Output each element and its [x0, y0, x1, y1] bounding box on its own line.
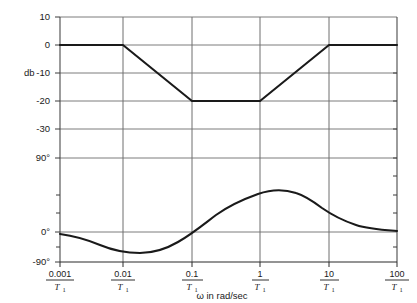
- x-tick-denominator-sub-1: 1: [125, 286, 128, 293]
- x-tick-numerator-3: 1: [257, 269, 262, 279]
- y-tick-phase-0: 90°: [36, 152, 51, 163]
- x-tick-denominator-3: T: [254, 282, 260, 292]
- x-tick-label-1: 0.01 T 1: [111, 269, 135, 293]
- plot-canvas: 10 0 -10 -20 -30 db 90° 0° -90° 0.001 T …: [0, 0, 417, 303]
- x-tick-denominator-sub-3: 1: [262, 286, 265, 293]
- phase-curve: [60, 190, 397, 253]
- bode-plot-figure: 10 0 -10 -20 -30 db 90° 0° -90° 0.001 T …: [0, 0, 417, 303]
- x-tick-denominator-0: T: [54, 282, 60, 292]
- x-tick-label-0: 0.001 T 1: [46, 269, 74, 293]
- x-tick-numerator-4: 10: [324, 269, 334, 279]
- x-tick-denominator-5: T: [391, 282, 397, 292]
- x-tick-numerator-1: 0.01: [114, 269, 132, 279]
- y-tick-mag-2: -10: [36, 67, 50, 78]
- x-tick-denominator-sub-5: 1: [399, 286, 402, 293]
- x-axis-title: ω in rad/sec: [196, 290, 247, 301]
- x-tick-denominator-sub-4: 1: [331, 286, 334, 293]
- x-tick-numerator-5: 100: [389, 269, 404, 279]
- y-tick-phase-2: -90°: [32, 256, 50, 267]
- y-tick-phase-1: 0°: [41, 226, 50, 237]
- decade-gridlines: [60, 17, 397, 262]
- x-tick-label-4: 10 T 1: [320, 269, 339, 293]
- x-tick-denominator-2: T: [186, 282, 192, 292]
- x-tick-denominator-4: T: [323, 282, 329, 292]
- x-tick-numerator-2: 0.1: [186, 269, 199, 279]
- y-axis-title-db: db: [24, 67, 35, 78]
- y-tick-mag-3: -20: [36, 95, 50, 106]
- x-tick-label-3: 1 T 1: [252, 269, 269, 293]
- phase-minor-ticks: [56, 176, 397, 247]
- right-axis-ticks: [393, 45, 397, 158]
- y-tick-mag-0: 10: [39, 11, 50, 22]
- x-tick-denominator-sub-0: 1: [62, 286, 65, 293]
- x-tick-numerator-0: 0.001: [49, 269, 72, 279]
- x-tick-denominator-1: T: [117, 282, 123, 292]
- x-axis-ticks: [60, 262, 397, 267]
- x-tick-label-5: 100 T 1: [385, 269, 409, 293]
- y-tick-mag-4: -30: [36, 123, 50, 134]
- y-axis-ticks: [55, 17, 60, 262]
- magnitude-gridlines: [60, 17, 397, 232]
- y-tick-mag-1: 0: [45, 39, 50, 50]
